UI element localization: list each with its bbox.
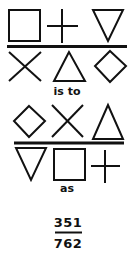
connector-as: as [47, 182, 87, 195]
inverted-triangle-icon [16, 148, 46, 180]
inverted-triangle-icon [93, 10, 123, 41]
plus-icon [91, 150, 120, 183]
square-icon [9, 10, 40, 41]
fraction-numerator: 351 [48, 215, 88, 230]
triangle-icon [54, 52, 85, 81]
fraction-denominator: 762 [48, 236, 88, 251]
connector-is-to: is to [47, 85, 87, 98]
cross-icon [52, 105, 83, 137]
diamond-icon [95, 51, 126, 82]
cross-icon [9, 52, 41, 81]
triangle-icon [93, 105, 123, 139]
square-icon [54, 149, 85, 180]
plus-icon [47, 9, 78, 43]
diamond-icon [14, 106, 45, 137]
